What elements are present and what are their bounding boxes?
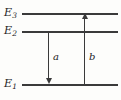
transition-label-a: a [53,52,59,62]
energy-level-line-e3 [22,13,118,15]
energy-level-label-e3: E3 [4,7,17,18]
energy-symbol-e2: E [4,24,12,37]
energy-subscript-e2: 2 [12,29,17,38]
energy-level-line-e1 [22,84,118,86]
energy-level-label-e1: E1 [4,78,17,89]
transition-arrowhead-b [82,13,88,19]
transition-arrow-shaft-b [84,18,85,84]
transition-arrow-shaft-a [48,31,49,79]
energy-symbol-e3: E [4,6,12,19]
energy-level-line-e2 [22,31,118,33]
energy-subscript-e1: 1 [12,82,17,91]
transition-label-b: b [89,52,95,62]
energy-level-label-e2: E2 [4,25,17,36]
transition-arrowhead-a [46,78,52,84]
energy-symbol-e1: E [4,77,12,90]
energy-subscript-e3: 3 [12,11,17,20]
energy-level-diagram: E3 E2 E1 a b [0,0,121,100]
